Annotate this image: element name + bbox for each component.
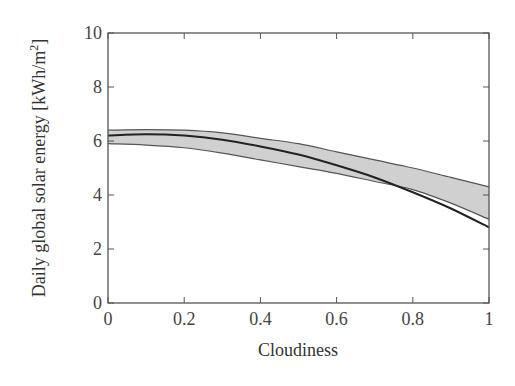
x-tick-label: 1 <box>485 309 494 329</box>
y-tick-label: 0 <box>93 293 102 313</box>
y-axis-ticks: 0246810 <box>84 23 489 313</box>
y-tick-label: 2 <box>93 239 102 259</box>
plot-frame <box>108 33 489 303</box>
x-tick-label: 0.4 <box>249 309 272 329</box>
x-axis-label: Cloudiness <box>258 340 338 360</box>
chart: 00.20.40.60.81 0246810 Cloudiness Daily … <box>0 0 515 386</box>
y-tick-label: 6 <box>93 131 102 151</box>
y-axis-label: Daily global solar energy [kWh/m2] <box>27 39 49 298</box>
uncertainty-band <box>108 130 489 220</box>
x-tick-label: 0.6 <box>325 309 348 329</box>
y-tick-label: 4 <box>93 185 102 205</box>
y-tick-label: 8 <box>93 77 102 97</box>
x-tick-label: 0 <box>104 309 113 329</box>
x-tick-label: 0.8 <box>402 309 425 329</box>
x-tick-label: 0.2 <box>173 309 196 329</box>
y-tick-label: 10 <box>84 23 102 43</box>
